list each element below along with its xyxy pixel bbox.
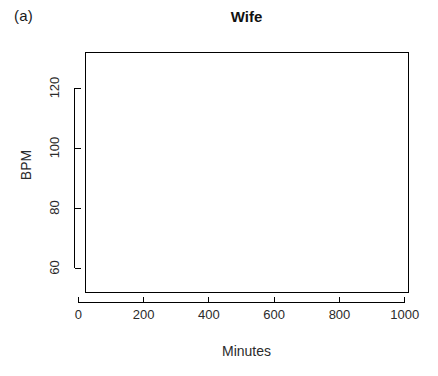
x-tick-label-800: 800 [309,308,369,321]
y-axis-title: BPM [19,137,33,193]
y-tick-label-60: 60 [48,251,61,285]
figure-panel: (a) Wife 6080100120 02004006008001000 BP… [0,0,438,376]
y-tick-label-80: 80 [48,191,61,225]
x-tick-label-600: 600 [244,308,304,321]
axes-group [75,53,409,303]
x-tick-label-200: 200 [114,308,174,321]
x-tick-label-400: 400 [179,308,239,321]
x-axis-title: Minutes [85,344,408,358]
y-tick-label-100: 100 [48,131,61,165]
x-tick-label-1000: 1000 [375,308,435,321]
plot-frame [86,53,409,293]
x-tick-label-0: 0 [48,308,108,321]
y-tick-label-120: 120 [48,71,61,105]
